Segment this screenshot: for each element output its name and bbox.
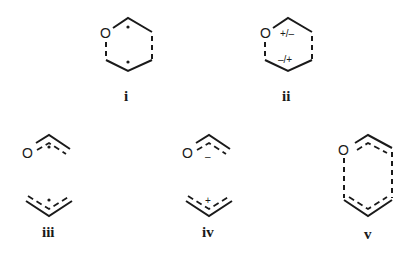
radical-dot-top [126,25,129,28]
radical-dot-allyl [47,198,50,201]
positive-charge: + [205,195,211,206]
bond-top [113,18,152,32]
structure-label-iv: iv [202,224,214,240]
oxallyl-inner-bond [197,143,226,154]
oxygen-atom: O [260,25,271,41]
structure-v: O v [338,135,392,242]
structure-ii: O +/– –/+ ii [260,18,312,104]
structure-label-iii: iii [42,224,55,240]
oxygen-atom: O [338,142,349,158]
oxallyl-inner-bond [37,143,66,154]
top-outer-bond [355,135,392,148]
structure-label-v: v [364,226,372,242]
structure-iii: O iii [22,135,72,240]
radical-dot-oxallyl [47,145,50,148]
top-inner-bond [357,143,387,153]
radical-dot-bottom [126,60,129,63]
structure-iv: O – + iv [182,135,232,240]
oxygen-atom: O [22,145,33,161]
structure-label-i: i [124,88,128,104]
oxygen-atom: O [182,145,193,161]
negative-charge: – [205,151,211,162]
charge-label-bottom: –/+ [278,54,292,65]
charge-label-top: +/– [280,28,295,39]
structure-i: O i [100,18,152,104]
structure-label-ii: ii [282,88,290,104]
reaction-intermediates-diagram: O i O +/– –/+ ii O iii O – + [0,0,413,255]
oxygen-atom: O [100,25,111,41]
